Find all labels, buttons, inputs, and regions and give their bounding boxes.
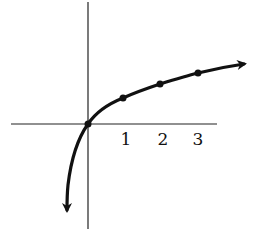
x-tick-label-3: 3 <box>193 131 204 148</box>
curve-upper <box>88 64 244 124</box>
point-1 <box>120 95 127 102</box>
point-origin <box>85 121 92 128</box>
x-tick-label-2: 2 <box>158 131 169 148</box>
curve-lower <box>67 124 88 210</box>
graph <box>0 0 256 229</box>
x-tick-label-1: 1 <box>121 131 132 148</box>
point-3 <box>195 70 202 77</box>
point-2 <box>157 81 164 88</box>
